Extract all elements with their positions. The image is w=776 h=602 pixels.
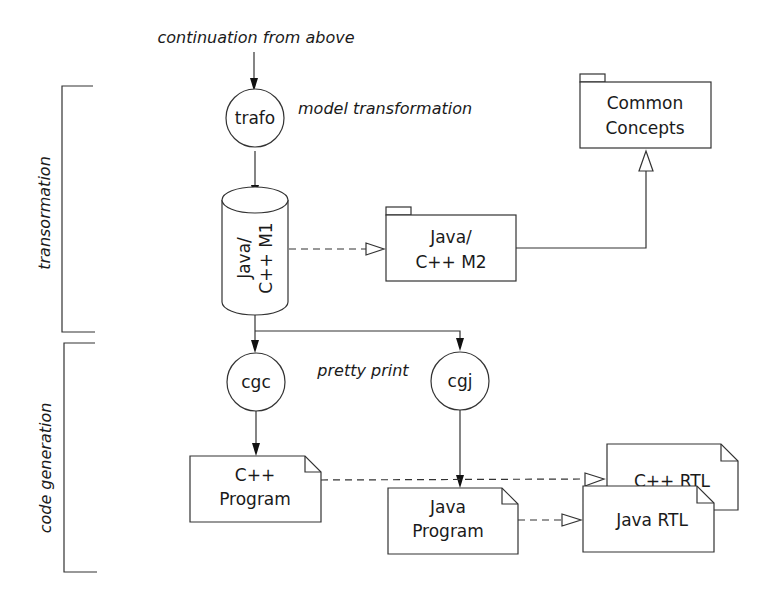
arrowhead-icon (252, 443, 260, 456)
m2-label-line1: Java/ (429, 227, 472, 247)
model-transformation-label: model transformation (298, 99, 472, 118)
java-program-document[interactable]: Java Program (388, 488, 518, 554)
cpp-program-to-rtl-dependency (321, 479, 585, 480)
common-label-line2: Concepts (605, 118, 684, 138)
arrowhead-icon (251, 340, 259, 353)
open-arrowhead-icon (562, 514, 581, 526)
common-concepts-package[interactable]: Common Concepts (580, 74, 711, 148)
trafo-node[interactable]: trafo (226, 89, 284, 147)
cgj-node[interactable]: cgj (431, 352, 489, 410)
java-cpp-m1-cylinder[interactable]: Java/ C++ M1 (222, 187, 288, 315)
java-rtl-document[interactable]: Java RTL (583, 486, 714, 552)
cgc-node[interactable]: cgc (227, 353, 285, 411)
cpp-program-line2: Program (219, 489, 291, 509)
java-program-line1: Java (429, 497, 466, 517)
code-generation-bracket (64, 343, 97, 572)
open-arrowhead-icon (585, 473, 604, 486)
cgc-label: cgc (241, 372, 270, 392)
cpp-program-line1: C++ (235, 465, 275, 485)
java-rtl-label: Java RTL (615, 510, 688, 530)
generalization-arrowhead-icon (639, 151, 653, 171)
cgj-label: cgj (448, 371, 473, 391)
java-cpp-m2-package[interactable]: Java/ C++ M2 (386, 207, 516, 281)
trafo-label: trafo (235, 108, 275, 128)
arrowhead-icon (456, 475, 464, 488)
m1-label-line1: Java/ (234, 237, 254, 280)
arrowhead-icon (456, 338, 464, 351)
m1-label-line2: C++ M1 (256, 222, 276, 293)
open-arrowhead-icon (366, 243, 384, 255)
m2-label-line2: C++ M2 (415, 252, 486, 272)
pretty-print-label: pretty print (316, 361, 409, 380)
m2-to-common-line (516, 171, 646, 248)
split-line (255, 331, 460, 344)
continuation-label: continuation from above (158, 28, 355, 47)
diagram-canvas: transormation code generation continuati… (0, 0, 776, 602)
cpp-program-document[interactable]: C++ Program (190, 456, 321, 522)
phase-label-transformation: transormation (35, 156, 54, 270)
common-label-line1: Common (607, 93, 684, 113)
phase-label-code-generation: code generation (36, 403, 55, 534)
java-program-line2: Program (412, 521, 484, 541)
transformation-bracket (62, 86, 95, 332)
